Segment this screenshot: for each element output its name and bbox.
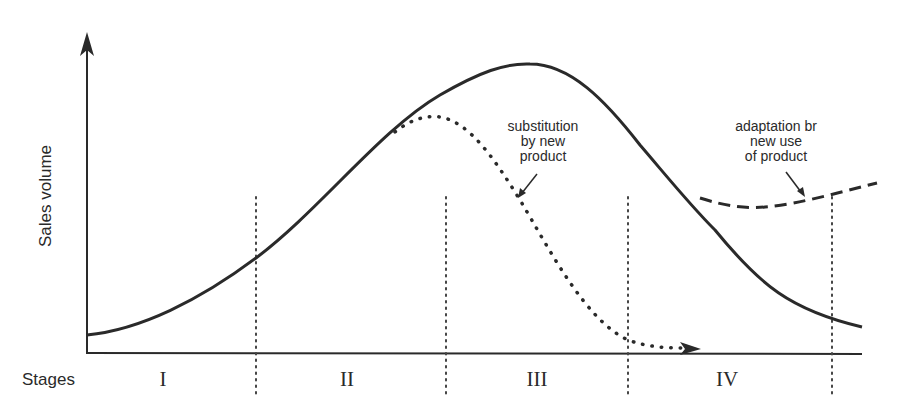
stage-label-4: IV (716, 367, 738, 392)
substitution-line-1: substitution (508, 119, 579, 134)
adaptation-line-3: of product (735, 149, 817, 164)
adaptation-line-2: new use (735, 134, 817, 149)
stage-label-2: II (340, 367, 354, 392)
x-axis (86, 353, 862, 354)
substitution-pointer (522, 174, 537, 193)
adaptation-annotation: adaptation br new use of product (735, 119, 817, 164)
product-life-cycle-diagram: Sales volume Stages I II III IV substitu… (0, 0, 919, 418)
sales-curve (87, 64, 862, 335)
substitution-line-3: product (508, 149, 579, 164)
y-axis-label: Sales volume (36, 145, 56, 247)
substitution-annotation: substitution by new product (508, 119, 579, 164)
adaptation-line-1: adaptation br (735, 119, 817, 134)
adaptation-pointer (786, 172, 801, 192)
stage-label-1: I (160, 367, 167, 392)
adaptation-curve (700, 183, 877, 208)
diagram-graphics (0, 0, 919, 418)
stage-dividers (256, 197, 832, 395)
stage-label-3: III (527, 367, 548, 392)
axes (80, 32, 862, 354)
annotation-pointers (518, 172, 805, 198)
substitution-line-2: by new (508, 134, 579, 149)
x-axis-label: Stages (22, 370, 75, 390)
